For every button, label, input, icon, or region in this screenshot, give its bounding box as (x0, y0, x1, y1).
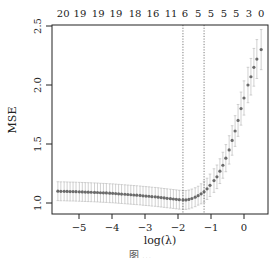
data-point (184, 198, 187, 201)
data-point (231, 139, 234, 142)
top-axis-label: 3 (246, 8, 252, 19)
x-axis-title: log(λ) (144, 234, 177, 247)
x-tick-label: 0 (241, 222, 247, 233)
data-point (175, 198, 178, 201)
data-point (114, 192, 117, 195)
data-point (228, 148, 231, 151)
y-tick-label: 2.0 (32, 77, 43, 93)
data-point (160, 196, 163, 199)
data-point (200, 192, 203, 195)
data-point (224, 157, 227, 160)
data-point (166, 197, 169, 200)
data-point (78, 190, 81, 193)
data-point (221, 164, 224, 167)
y-axis: 1.01.52.02.5 (32, 18, 52, 211)
data-point (90, 191, 93, 194)
data-point (187, 198, 190, 201)
data-point (150, 195, 153, 198)
data-point (123, 193, 126, 196)
x-tick-label: −3 (138, 222, 153, 233)
data-point (108, 192, 111, 195)
data-point (169, 197, 172, 200)
data-point (99, 191, 102, 194)
data-point (260, 48, 263, 51)
data-point (96, 191, 99, 194)
top-axis-nonzero-counts: 201919191816116555530 (57, 8, 265, 19)
data-point (87, 191, 90, 194)
data-point (233, 129, 236, 132)
top-axis-label: 16 (147, 8, 160, 19)
data-point (56, 190, 59, 193)
data-point (138, 194, 141, 197)
data-point (111, 192, 114, 195)
data-point (255, 57, 258, 60)
data-point (172, 197, 175, 200)
error-bars (57, 30, 263, 210)
data-point (105, 191, 108, 194)
data-point (129, 193, 132, 196)
y-tick-label: 2.5 (32, 18, 43, 34)
top-axis-label: 19 (74, 8, 87, 19)
top-axis-label: 0 (258, 8, 264, 19)
top-axis-label: 11 (165, 8, 178, 19)
data-points (56, 48, 262, 202)
figure-caption-partial: 图 ... (0, 248, 280, 258)
data-point (71, 190, 74, 193)
top-axis-label: 19 (110, 8, 123, 19)
cv-lasso-mse-plot: −5−4−3−2−10 1.01.52.02.5 201919191816116… (0, 0, 280, 258)
data-point (126, 193, 129, 196)
data-point (215, 175, 218, 178)
plot-frame (52, 25, 268, 214)
data-point (93, 191, 96, 194)
data-point (147, 195, 150, 198)
data-point (163, 196, 166, 199)
data-point (63, 190, 66, 193)
data-point (120, 192, 123, 195)
data-point (246, 83, 249, 86)
data-point (242, 96, 245, 99)
data-point (102, 191, 105, 194)
y-tick-label: 1.5 (32, 136, 43, 152)
data-point (154, 195, 157, 198)
top-axis-label: 5 (221, 8, 227, 19)
y-tick-label: 1.0 (32, 195, 43, 211)
top-axis-label: 5 (195, 8, 201, 19)
data-point (205, 187, 208, 190)
data-point (236, 119, 239, 122)
data-point (66, 190, 69, 193)
data-point (252, 66, 255, 69)
data-point (59, 190, 62, 193)
data-point (212, 179, 215, 182)
data-point (68, 190, 71, 193)
top-axis-label: 18 (129, 8, 142, 19)
data-point (144, 194, 147, 197)
x-tick-label: −4 (105, 222, 120, 233)
top-axis-label: 20 (57, 8, 70, 19)
data-point (141, 194, 144, 197)
data-point (190, 197, 193, 200)
top-axis-label: 5 (233, 8, 239, 19)
data-point (74, 190, 77, 193)
data-point (194, 196, 197, 199)
x-axis: −5−4−3−2−10 (72, 214, 248, 233)
x-tick-label: −2 (171, 222, 186, 233)
data-point (132, 193, 135, 196)
data-point (218, 170, 221, 173)
top-axis-label: 5 (208, 8, 214, 19)
data-point (135, 194, 138, 197)
top-axis-label: 19 (92, 8, 105, 19)
x-tick-label: −1 (204, 222, 219, 233)
data-point (208, 184, 211, 187)
data-point (157, 196, 160, 199)
data-point (117, 192, 120, 195)
y-axis-title: MSE (6, 107, 19, 134)
top-axis-label: 6 (182, 8, 188, 19)
data-point (197, 194, 200, 197)
data-point (84, 190, 87, 193)
data-point (81, 190, 84, 193)
x-tick-label: −5 (72, 222, 87, 233)
data-point (249, 75, 252, 78)
data-point (239, 107, 242, 110)
data-point (178, 198, 181, 201)
